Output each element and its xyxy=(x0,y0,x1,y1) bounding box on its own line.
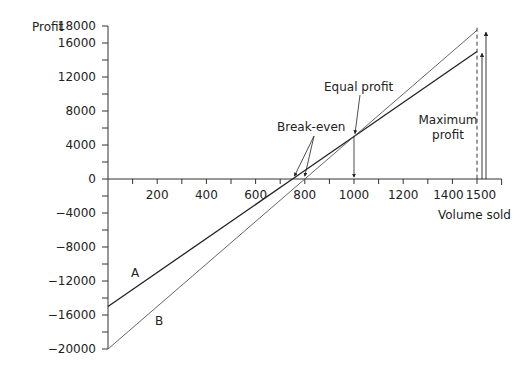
annotations xyxy=(295,28,487,179)
maximum-profit-label-2: profit xyxy=(432,128,464,142)
y-tick-label: 18000 xyxy=(58,19,96,33)
x-tick-label: 1200 xyxy=(388,188,419,202)
y-axis-label: Profit xyxy=(32,20,64,34)
series-b-label: B xyxy=(155,314,163,328)
maximum-profit-label-1: Maximum xyxy=(418,113,477,127)
x-tick-label: 400 xyxy=(195,188,218,202)
y-tick-label: −12000 xyxy=(48,274,96,288)
x-tick-label: 1000 xyxy=(339,188,370,202)
equal-profit-label: Equal profit xyxy=(324,80,393,94)
x-tick-label: 600 xyxy=(244,188,267,202)
y-tick-label: 0 xyxy=(88,172,96,186)
series-a-label: A xyxy=(131,266,140,280)
y-tick-label: 8000 xyxy=(65,104,96,118)
y-tick-label: −4000 xyxy=(55,206,96,220)
break-even-label: Break-even xyxy=(277,120,345,134)
y-tick-label: −20000 xyxy=(48,342,96,356)
axes: 180001600012000800040000−4000−8000−12000… xyxy=(48,19,502,356)
profit-chart: 180001600012000800040000−4000−8000−12000… xyxy=(0,0,530,370)
x-tick-label: 1500 xyxy=(466,188,497,202)
y-tick-label: −16000 xyxy=(48,308,96,322)
x-tick-label: 200 xyxy=(146,188,169,202)
x-axis-label: Volume sold xyxy=(438,208,511,222)
y-tick-label: 16000 xyxy=(58,36,96,50)
y-tick-label: 4000 xyxy=(65,138,96,152)
y-tick-label: 12000 xyxy=(58,70,96,84)
y-tick-label: −8000 xyxy=(55,240,96,254)
x-tick-label: 800 xyxy=(293,188,316,202)
x-tick-label: 1400 xyxy=(433,188,464,202)
